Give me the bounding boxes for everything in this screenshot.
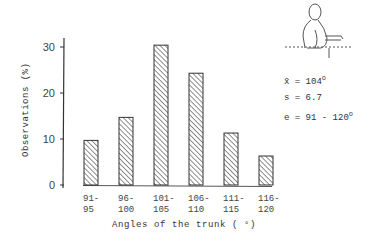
x-tick-label: 96-: [118, 194, 134, 204]
bar-111-115: [224, 133, 238, 185]
seated-person-illustration-icon: [285, 2, 355, 62]
x-tick-label: 115: [223, 205, 239, 215]
x-tick-label: 116-: [258, 194, 280, 204]
mean-stat: x̄ = 104o: [284, 70, 353, 90]
y-tick-label: 0: [49, 179, 55, 191]
x-tick-label: 106-: [188, 194, 210, 204]
y-axis: [63, 38, 64, 188]
bars: [84, 45, 273, 185]
x-axis-label: Angles of the trunk ( °): [0, 220, 376, 230]
x-axis: [83, 186, 272, 187]
y-tick-label: 30: [43, 41, 55, 53]
x-tick-label: 105: [153, 205, 169, 215]
bar-101-105: [154, 45, 168, 185]
range-stat: e = 91 - 120o: [284, 106, 353, 126]
x-tick-label: 111-: [223, 194, 245, 204]
y-tick-label: 10: [43, 133, 55, 145]
y-axis-label: Observations (%): [21, 77, 31, 157]
bar-91-95: [84, 140, 98, 185]
x-tick-label: 101-: [153, 194, 175, 204]
bar-96-100: [119, 117, 133, 185]
x-tick-label: 91-: [83, 194, 99, 204]
statistics-box: x̄ = 104o s = 6.7 e = 91 - 120o: [284, 70, 353, 126]
bar-106-110: [189, 73, 203, 185]
bar-116-120: [259, 156, 273, 185]
x-tick-label: 95: [83, 205, 94, 215]
x-tick-label: 110: [188, 205, 204, 215]
sd-stat: s = 6.7: [284, 90, 353, 106]
x-tick-label: 100: [118, 205, 134, 215]
x-tick-label: 120: [258, 205, 274, 215]
y-tick-label: 20: [43, 87, 55, 99]
